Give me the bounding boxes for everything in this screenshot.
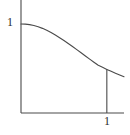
curve-path [21,24,124,77]
y-axis-tick-label: 1 [4,16,16,28]
axes-group [21,0,124,113]
data-group [21,24,124,113]
figure-container: 1 1 [0,0,130,135]
x-axis-tick-label: 1 [101,115,113,127]
